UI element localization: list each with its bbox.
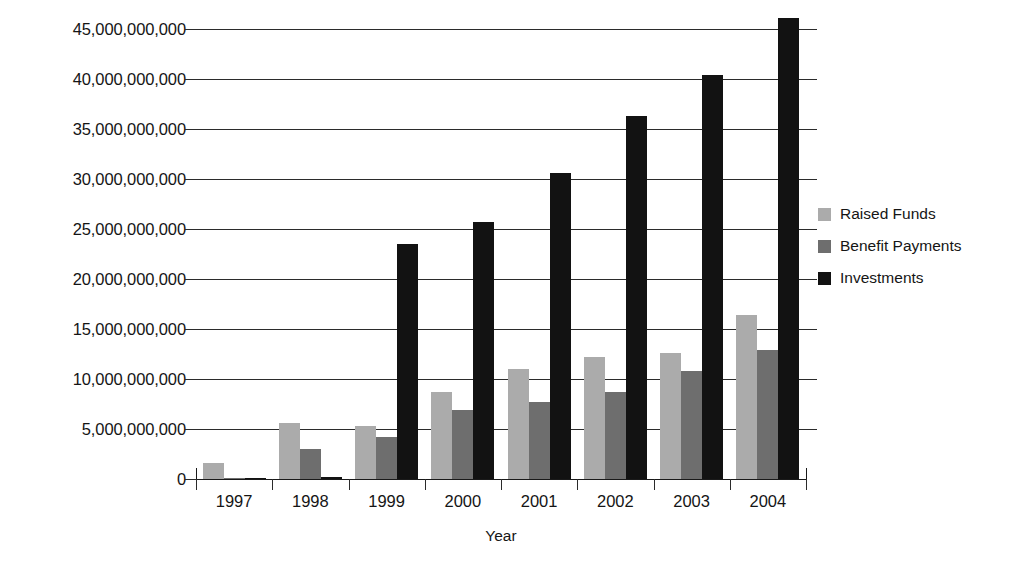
bar: [224, 478, 245, 480]
bar-group: [577, 29, 653, 479]
x-axis-tick-label: 2000: [445, 492, 482, 511]
bar: [376, 437, 397, 479]
bar-group-inner: [654, 29, 730, 479]
bar-group: [654, 29, 730, 479]
x-axis-tick-label: 2004: [750, 492, 787, 511]
y-axis-tick: [185, 279, 196, 280]
y-axis-tick-label: 15,000,000,000: [73, 320, 186, 339]
y-axis-tick-right: [806, 29, 817, 30]
bar-group: [730, 29, 806, 479]
y-axis-tick-labels: 05,000,000,00010,000,000,00015,000,000,0…: [0, 0, 186, 562]
y-axis-tick: [185, 429, 196, 430]
bar: [279, 423, 300, 479]
y-axis-tick-right: [806, 129, 817, 130]
legend-label: Investments: [840, 269, 924, 287]
bar: [584, 357, 605, 479]
y-axis-tick-label: 45,000,000,000: [73, 20, 186, 39]
bar: [736, 315, 757, 479]
bar-group-inner: [501, 29, 577, 479]
y-axis-tick: [185, 479, 196, 480]
x-axis-tick-label: 1998: [292, 492, 329, 511]
legend-item: Investments: [818, 262, 1008, 294]
bar: [355, 426, 376, 479]
bar-chart: Total (₱) 05,000,000,00010,000,000,00015…: [0, 0, 1011, 562]
y-axis-tick: [185, 129, 196, 130]
bar-group-inner: [577, 29, 653, 479]
y-axis-tick-right: [806, 179, 817, 180]
bar-group: [196, 29, 272, 479]
x-axis-tick-labels: 19971998199920002001200220032004: [196, 492, 806, 518]
x-axis-tick: [806, 479, 807, 490]
bar: [245, 478, 266, 480]
bar: [452, 410, 473, 479]
x-axis-title: Year: [196, 527, 806, 545]
legend: Raised FundsBenefit PaymentsInvestments: [818, 198, 1008, 294]
legend-label: Raised Funds: [840, 205, 936, 223]
y-axis-tick-right: [806, 379, 817, 380]
y-axis-tick-right: [806, 279, 817, 280]
legend-swatch: [818, 208, 831, 221]
x-axis-tick: [501, 479, 502, 490]
bar: [321, 477, 342, 480]
legend-item: Benefit Payments: [818, 230, 1008, 262]
legend-swatch: [818, 272, 831, 285]
bar-group-inner: [272, 29, 348, 479]
y-axis-tick-label: 35,000,000,000: [73, 120, 186, 139]
bar: [431, 392, 452, 479]
y-axis-tick: [185, 379, 196, 380]
bar: [778, 18, 799, 479]
bar: [397, 244, 418, 479]
bar: [605, 392, 626, 479]
y-axis-tick-label: 40,000,000,000: [73, 70, 186, 89]
y-axis-tick-label: 10,000,000,000: [73, 370, 186, 389]
bar-group-inner: [730, 29, 806, 479]
bar: [757, 350, 778, 479]
y-axis-tick-label: 30,000,000,000: [73, 170, 186, 189]
y-axis-tick: [185, 29, 196, 30]
plot-area: [196, 29, 806, 479]
y-axis-right-cap: [806, 468, 807, 479]
x-axis-tick-label: 1997: [216, 492, 253, 511]
legend-swatch: [818, 240, 831, 253]
bar: [529, 402, 550, 479]
x-axis-tick: [654, 479, 655, 490]
x-axis-tick: [730, 479, 731, 490]
x-axis-tick-label: 2002: [597, 492, 634, 511]
bar-group: [501, 29, 577, 479]
bar: [203, 463, 224, 479]
legend-label: Benefit Payments: [840, 237, 961, 255]
x-axis-tick: [577, 479, 578, 490]
bar-group-inner: [425, 29, 501, 479]
x-axis-tick: [196, 479, 197, 490]
bar: [473, 222, 494, 479]
bar: [626, 116, 647, 479]
bar: [300, 449, 321, 479]
y-axis-tick-label: 25,000,000,000: [73, 220, 186, 239]
x-axis-tick-label: 1999: [368, 492, 405, 511]
y-axis-tick: [185, 329, 196, 330]
bar-group-inner: [196, 29, 272, 479]
y-axis-tick-right: [806, 229, 817, 230]
y-axis-tick: [185, 179, 196, 180]
y-axis-tick-right: [806, 79, 817, 80]
y-axis-tick: [185, 229, 196, 230]
legend-item: Raised Funds: [818, 198, 1008, 230]
bar: [550, 173, 571, 479]
y-axis-left-cap: [196, 468, 197, 479]
y-axis-tick-right: [806, 329, 817, 330]
x-axis-tick: [349, 479, 350, 490]
bar-group: [425, 29, 501, 479]
x-axis-tick-label: 2003: [673, 492, 710, 511]
y-axis-tick-label: 5,000,000,000: [82, 420, 186, 439]
y-axis-tick: [185, 79, 196, 80]
bar-group: [349, 29, 425, 479]
x-axis-tick-label: 2001: [521, 492, 558, 511]
bar-group: [272, 29, 348, 479]
bar: [681, 371, 702, 479]
bar: [702, 75, 723, 479]
bar: [508, 369, 529, 479]
x-axis-tick: [425, 479, 426, 490]
y-axis-tick-right: [806, 429, 817, 430]
y-axis-tick-label: 20,000,000,000: [73, 270, 186, 289]
bar: [660, 353, 681, 479]
